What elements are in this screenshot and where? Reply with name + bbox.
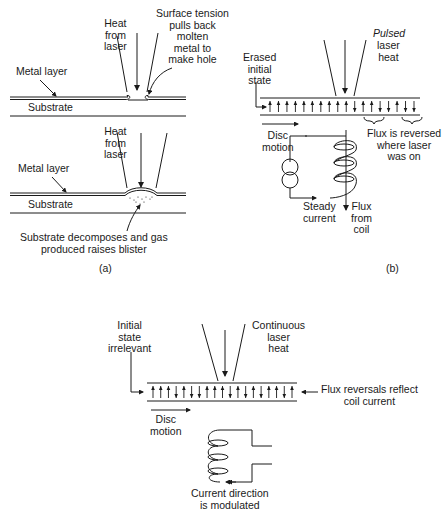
caption-b: (b)	[386, 262, 399, 274]
panel-b-flux-arrows	[268, 101, 416, 112]
a-top-metal-label: Metal layer	[16, 66, 67, 78]
panel-c-flux-arrows	[151, 386, 294, 398]
a-top-heat-label: Heat from laser	[104, 18, 127, 53]
a-bottom-metal-label: Metal layer	[18, 163, 69, 175]
diagram-canvas	[0, 0, 448, 517]
a-bottom-substrate-label: Substrate	[28, 199, 73, 211]
a-blister-label: Substrate decomposes and gas produced ra…	[20, 232, 168, 255]
b-steady-current-label: Steady current	[303, 201, 336, 224]
b-laser-heat-label: laser heat	[377, 40, 400, 63]
b-pulsed-label: Pulsed	[373, 28, 405, 40]
a-bottom-heat-label: Heat from laser	[104, 126, 127, 161]
b-disc-motion-label: Disc motion	[262, 130, 294, 153]
b-erased-label: Erased initial state	[243, 52, 276, 87]
c-initial-label: Initial state irrelevant	[108, 320, 151, 355]
c-flux-reversals-label: Flux reversals reflect coil current	[321, 384, 418, 407]
a-top-tension-label: Surface tension pulls back molten metal …	[156, 8, 229, 66]
c-continuous-label: Continuous laser heat	[252, 320, 305, 355]
b-flux-from-coil-label: Flux from coil	[351, 201, 372, 236]
a-top-substrate-label: Substrate	[28, 102, 73, 114]
c-current-label: Current direction is modulated	[191, 488, 269, 511]
c-disc-motion-label: Disc motion	[150, 414, 182, 437]
caption-a: (a)	[99, 262, 112, 274]
panel-a-bottom-diagram	[10, 132, 186, 231]
b-flux-reversed-label: Flux is reversed where laser was on	[367, 128, 441, 163]
panel-b-diagram	[256, 40, 422, 210]
